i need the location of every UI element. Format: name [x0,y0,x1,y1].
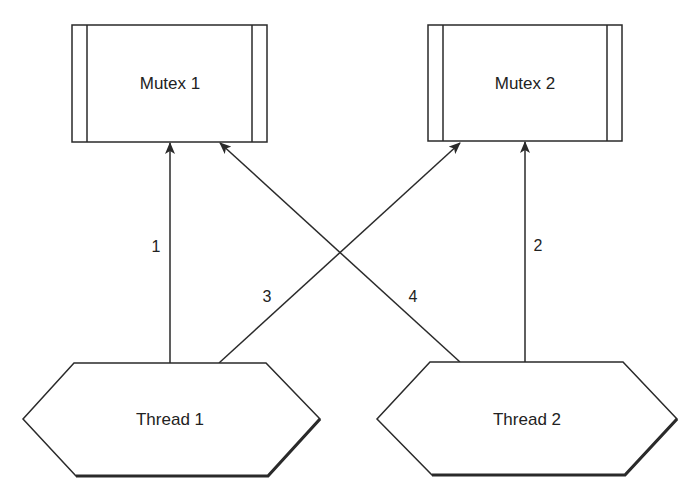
mutex-1-node: Mutex 1 [72,25,267,142]
mutex-2-node: Mutex 2 [428,25,622,141]
thread-2-node: Thread 2 [377,362,677,475]
thread-1-label: Thread 1 [136,410,204,429]
edge-3-label: 3 [263,288,272,305]
edge-4-label: 4 [409,288,418,305]
thread-1-node: Thread 1 [23,363,320,476]
thread-2-label: Thread 2 [493,410,561,429]
mutex-1-label: Mutex 1 [140,74,200,93]
mutex-2-label: Mutex 2 [495,74,555,93]
edge-1-label: 1 [152,238,161,255]
edge-2-label: 2 [534,237,543,254]
deadlock-diagram: Mutex 1 Mutex 2 1 2 3 4 Thread 1 Thread … [0,0,694,493]
